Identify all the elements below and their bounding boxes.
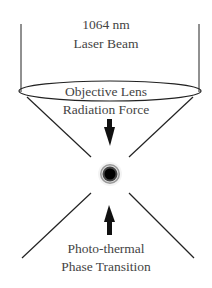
arrow-up-icon [104, 205, 115, 235]
beam-wavelength-label: 1064 nm [0, 17, 212, 33]
arrow-down-icon [104, 119, 115, 146]
objective-lens-label: Objective Lens [0, 84, 212, 100]
particle-icon [98, 162, 122, 186]
radiation-force-label: Radiation Force [0, 102, 212, 118]
photo-thermal-label: Photo-thermal [0, 241, 212, 257]
phase-transition-label: Phase Transition [0, 259, 212, 275]
beam-name-label: Laser Beam [0, 36, 212, 52]
